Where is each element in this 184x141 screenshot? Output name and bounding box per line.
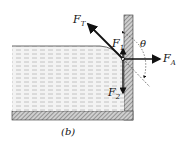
f2-force-label: F2 bbox=[108, 87, 120, 101]
fa-label-sub: A bbox=[171, 59, 176, 67]
tension-label-sub: T bbox=[81, 20, 86, 28]
theta-label: θ bbox=[140, 39, 146, 49]
fa-label-main: F bbox=[163, 52, 171, 65]
f1-force-label: F1 bbox=[112, 38, 124, 52]
f1-label-main: F bbox=[112, 37, 120, 50]
f2-label-main: F bbox=[108, 86, 116, 99]
f2-label-sub: 2 bbox=[116, 93, 120, 101]
diagram-canvas bbox=[0, 0, 184, 141]
figure-caption: (b) bbox=[61, 126, 75, 137]
liquid-body bbox=[12, 46, 124, 111]
adhesion-force-label: FA bbox=[163, 53, 176, 67]
f1-label-sub: 1 bbox=[120, 44, 124, 52]
tension-label-main: F bbox=[73, 13, 81, 26]
tension-force-label: FT bbox=[73, 14, 85, 28]
